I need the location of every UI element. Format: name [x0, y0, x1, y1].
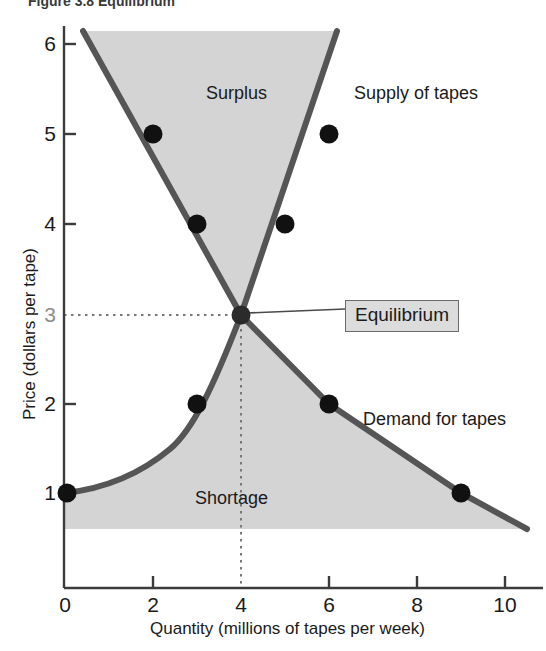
- equilibrium-callout: Equilibrium: [345, 300, 459, 332]
- supply-curve-label: Supply of tapes: [354, 83, 478, 104]
- y-tick-label-4: 4: [30, 213, 56, 234]
- surplus-label: Surplus: [206, 83, 267, 104]
- surplus-region: [83, 31, 337, 315]
- x-tick-label-2: 2: [138, 594, 168, 615]
- marker-demand-9-1: [452, 484, 471, 503]
- y-tick-label-5: 5: [30, 123, 56, 144]
- marker-supply-6-5: [320, 125, 339, 144]
- figure-container: Figure 3.8 Equilibrium: [0, 0, 546, 651]
- demand-curve-label: Demand for tapes: [363, 409, 506, 430]
- marker-supply-3-4: [188, 215, 207, 234]
- y-tick-label-6: 6: [30, 33, 56, 54]
- y-axis-title: Price (dollars per tape): [20, 248, 40, 420]
- shortage-label: Shortage: [195, 488, 268, 509]
- marker-demand-6-2: [320, 395, 339, 414]
- marker-demand-3-2: [188, 395, 207, 414]
- x-tick-label-0: 0: [50, 594, 80, 615]
- x-axis-title: Quantity (millions of tapes per week): [150, 619, 425, 639]
- marker-equilibrium-4-3: [232, 306, 251, 325]
- x-tick-label-4: 4: [226, 594, 256, 615]
- x-tick-label-6: 6: [314, 594, 344, 615]
- x-tick-label-8: 8: [402, 594, 432, 615]
- y-tick-label-1: 1: [30, 482, 56, 503]
- marker-supply-5-4: [276, 215, 295, 234]
- marker-demand-0-1: [58, 484, 77, 503]
- equilibrium-label: Equilibrium: [355, 304, 449, 325]
- equilibrium-leader-line: [247, 309, 345, 313]
- x-tick-label-10: 10: [490, 594, 520, 615]
- marker-supply-2-5: [144, 125, 163, 144]
